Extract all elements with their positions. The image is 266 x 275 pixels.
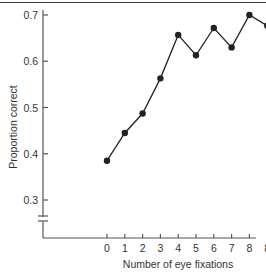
- data-point: [193, 52, 199, 58]
- x-axis-title: Number of eye fixations: [123, 258, 233, 270]
- x-tick-label: 0: [104, 242, 110, 254]
- data-point: [228, 44, 234, 50]
- y-tick-label: 0.5: [23, 102, 38, 114]
- y-axis-title: Proportion correct: [7, 85, 19, 169]
- x-tick-label: 8+: [264, 242, 266, 254]
- data-series: [104, 12, 266, 164]
- data-point: [211, 25, 217, 31]
- data-point: [139, 110, 145, 116]
- x-tick-label: 6: [211, 242, 217, 254]
- line-chart: 0.30.40.50.60.7 0123456788+ Number of ey…: [0, 0, 266, 275]
- data-point: [104, 157, 110, 163]
- x-tick-label: 2: [140, 242, 146, 254]
- data-point: [246, 12, 252, 18]
- x-axis-ticks: 0123456788+: [104, 234, 266, 254]
- x-tick-label: 4: [175, 242, 181, 254]
- axes: [38, 10, 256, 238]
- y-tick-label: 0.7: [23, 9, 38, 21]
- x-tick-label: 5: [193, 242, 199, 254]
- x-tick-label: 8: [246, 242, 252, 254]
- y-tick-label: 0.4: [23, 148, 38, 160]
- data-point: [175, 32, 181, 38]
- x-tick-label: 1: [122, 242, 128, 254]
- series-line: [107, 15, 266, 161]
- data-point: [157, 75, 163, 81]
- data-point: [122, 130, 128, 136]
- y-axis-ticks: 0.30.40.50.60.7: [23, 9, 48, 206]
- x-tick-label: 7: [229, 242, 235, 254]
- x-tick-label: 3: [157, 242, 163, 254]
- y-tick-label: 0.3: [23, 194, 38, 206]
- y-tick-label: 0.6: [23, 55, 38, 67]
